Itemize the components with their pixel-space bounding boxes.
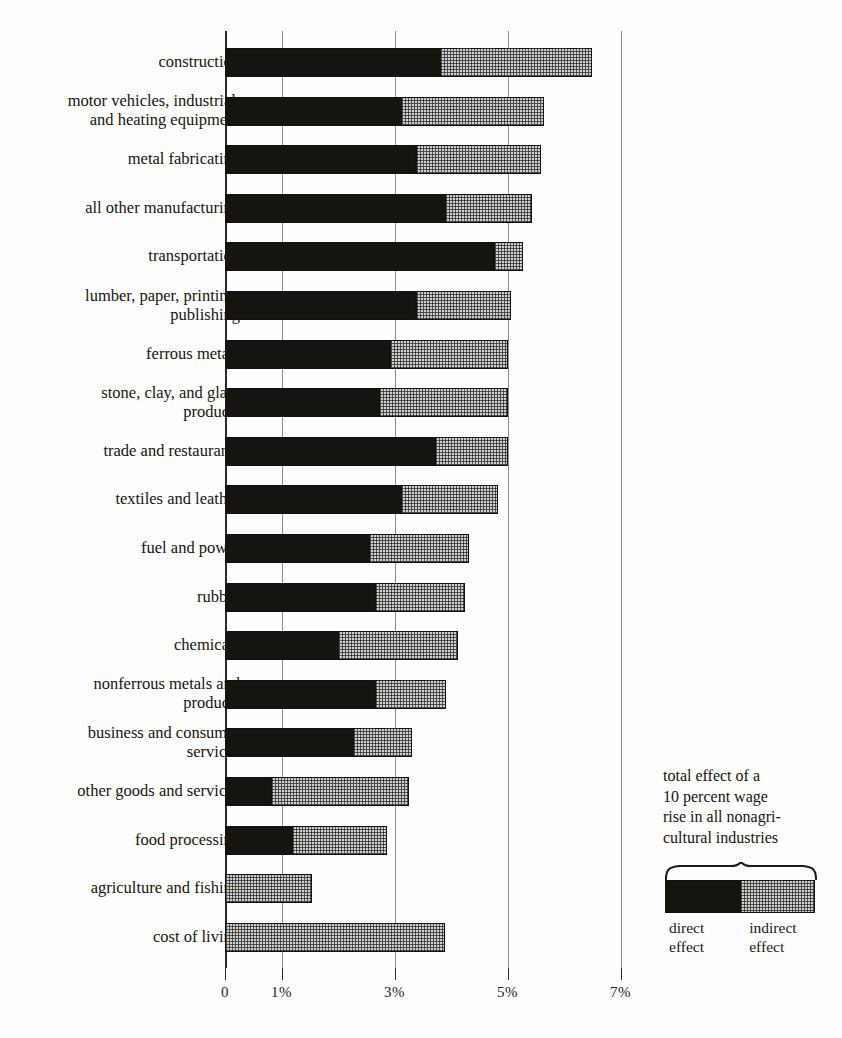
x-tick-label: 5% bbox=[497, 984, 518, 1001]
stacked-bar bbox=[225, 826, 387, 855]
x-tick-label: 1% bbox=[271, 984, 292, 1001]
bar-segment-indirect bbox=[436, 438, 507, 465]
stacked-bar bbox=[225, 583, 465, 612]
bar-segment-direct bbox=[226, 146, 415, 173]
category-label: trade and restaurants bbox=[0, 441, 240, 460]
category-label: construction bbox=[0, 52, 240, 71]
stacked-bar bbox=[225, 874, 312, 903]
bar-segment-direct bbox=[226, 632, 338, 659]
category-label: cost of living bbox=[0, 927, 240, 946]
legend-key-indirect: indirect effect bbox=[743, 918, 833, 956]
category-label: business and consumer services bbox=[0, 723, 240, 761]
category-label: other goods and services bbox=[0, 781, 240, 800]
category-label: food processing bbox=[0, 830, 240, 849]
bar-chart: 01%3%5%7% constructionmotor vehicles, in… bbox=[0, 0, 842, 1038]
bar-segment-indirect bbox=[402, 98, 543, 125]
bar-segment-direct bbox=[226, 98, 401, 125]
bar-segment-direct bbox=[226, 681, 375, 708]
stacked-bar bbox=[225, 97, 544, 126]
legend-title: total effect of a 10 percent wage rise i… bbox=[663, 766, 833, 848]
legend-key-direct: direct effect bbox=[663, 918, 743, 956]
stacked-bar bbox=[225, 242, 523, 271]
bar-segment-indirect bbox=[370, 535, 468, 562]
legend-swatch-indirect bbox=[741, 881, 814, 912]
tick-mark bbox=[621, 968, 622, 980]
stacked-bar bbox=[225, 680, 446, 709]
category-label: metal fabricating bbox=[0, 149, 240, 168]
category-label: nonferrous metals and products bbox=[0, 674, 240, 712]
bar-segment-direct bbox=[226, 778, 271, 805]
category-label: rubber bbox=[0, 587, 240, 606]
category-label: all other manufacturing bbox=[0, 198, 240, 217]
bar-segment-indirect bbox=[376, 584, 464, 611]
bar-segment-indirect bbox=[354, 729, 411, 756]
category-label: chemicals bbox=[0, 635, 240, 654]
bar-segment-direct bbox=[226, 292, 415, 319]
bar-segment-indirect bbox=[417, 292, 511, 319]
bar-segment-indirect bbox=[376, 681, 446, 708]
bar-segment-indirect bbox=[417, 146, 541, 173]
bar-segment-direct bbox=[226, 49, 440, 76]
x-tick-label: 3% bbox=[384, 984, 405, 1001]
category-label: fuel and power bbox=[0, 538, 240, 557]
stacked-bar bbox=[225, 728, 412, 757]
category-label: lumber, paper, printing, publishing bbox=[0, 286, 240, 324]
gridline-7% bbox=[621, 31, 622, 968]
bar-segment-indirect bbox=[226, 924, 444, 951]
bar-segment-direct bbox=[226, 535, 368, 562]
category-label: transportation bbox=[0, 246, 240, 265]
stacked-bar bbox=[225, 777, 409, 806]
category-label: agriculture and fishing bbox=[0, 878, 240, 897]
category-label: textiles and leather bbox=[0, 489, 240, 508]
category-label: stone, clay, and glass products bbox=[0, 383, 240, 421]
legend-swatch-direct bbox=[666, 881, 740, 912]
legend-swatch bbox=[665, 880, 815, 913]
bar-segment-indirect bbox=[226, 875, 311, 902]
page-artifact bbox=[430, 0, 690, 12]
stacked-bar bbox=[225, 485, 498, 514]
stacked-bar bbox=[225, 340, 508, 369]
stacked-bar bbox=[225, 534, 469, 563]
bar-segment-direct bbox=[226, 584, 375, 611]
stacked-bar bbox=[225, 631, 458, 660]
legend-keys: direct effect indirect effect bbox=[663, 918, 833, 956]
tick-mark bbox=[282, 968, 283, 980]
bar-segment-indirect bbox=[441, 49, 591, 76]
bar-segment-indirect bbox=[380, 389, 506, 416]
category-label: motor vehicles, industrial, and heating … bbox=[0, 91, 240, 129]
chart-legend: total effect of a 10 percent wage rise i… bbox=[663, 766, 833, 848]
bar-segment-direct bbox=[226, 438, 434, 465]
tick-mark bbox=[225, 968, 226, 980]
stacked-bar bbox=[225, 437, 508, 466]
bar-segment-direct bbox=[226, 729, 353, 756]
bar-segment-indirect bbox=[293, 827, 386, 854]
bar-segment-indirect bbox=[391, 341, 507, 368]
tick-mark bbox=[508, 968, 509, 980]
stacked-bar bbox=[225, 48, 592, 77]
stacked-bar bbox=[225, 923, 445, 952]
bar-segment-direct bbox=[226, 486, 401, 513]
category-label: ferrous metals bbox=[0, 344, 240, 363]
bar-segment-indirect bbox=[446, 195, 531, 222]
bar-segment-direct bbox=[226, 195, 445, 222]
bar-segment-direct bbox=[226, 389, 379, 416]
bar-segment-indirect bbox=[495, 243, 522, 270]
bar-segment-direct bbox=[226, 341, 389, 368]
tick-mark bbox=[395, 968, 396, 980]
x-tick-label: 7% bbox=[610, 984, 631, 1001]
stacked-bar bbox=[225, 145, 541, 174]
bar-segment-indirect bbox=[339, 632, 457, 659]
stacked-bar bbox=[225, 194, 532, 223]
bar-segment-direct bbox=[226, 827, 292, 854]
stacked-bar bbox=[225, 388, 508, 417]
bar-segment-indirect bbox=[402, 486, 498, 513]
x-tick-label: 0 bbox=[221, 984, 229, 1001]
bar-segment-direct bbox=[226, 243, 493, 270]
brace-icon bbox=[665, 862, 817, 880]
bar-segment-indirect bbox=[272, 778, 407, 805]
stacked-bar bbox=[225, 291, 511, 320]
